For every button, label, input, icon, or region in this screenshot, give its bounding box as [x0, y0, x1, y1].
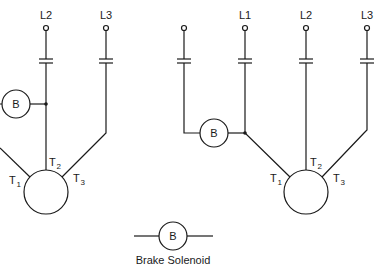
svg-text:3: 3: [81, 178, 86, 187]
svg-text:1: 1: [17, 180, 22, 189]
svg-text:2: 2: [57, 162, 62, 171]
svg-text:T: T: [270, 172, 277, 184]
terminal-unlabeled-right: [182, 26, 187, 31]
terminal-label-t2-right: T 2: [310, 156, 323, 171]
terminal-label-t2-left: T 2: [49, 156, 62, 171]
svg-text:T: T: [73, 172, 80, 184]
svg-text:T: T: [9, 174, 16, 186]
solenoid-label-right: B: [210, 127, 217, 139]
legend: B Brake Solenoid: [134, 222, 213, 266]
svg-text:T: T: [310, 156, 317, 168]
wire-l3-lower-right: [322, 63, 367, 177]
svg-text:3: 3: [341, 178, 346, 187]
wire-l3-lower-left: [62, 63, 106, 177]
terminal-l2-left: [44, 26, 49, 31]
terminal-l1-right: [243, 26, 248, 31]
junction-dot-right: [243, 131, 247, 135]
terminal-label-t3-left: T 3: [73, 172, 86, 187]
terminal-label-t1-left: T 1: [9, 174, 22, 189]
terminal-label-t1-right: T 1: [270, 172, 283, 187]
solenoid-label-left: B: [12, 98, 19, 110]
terminal-l3-right: [365, 26, 370, 31]
legend-caption: Brake Solenoid: [136, 254, 211, 266]
svg-text:1: 1: [278, 178, 283, 187]
motor-right: [284, 170, 328, 214]
terminal-l3-left: [104, 26, 109, 31]
svg-text:2: 2: [318, 162, 323, 171]
svg-text:T: T: [333, 172, 340, 184]
line-label-l2-right: L2: [300, 9, 312, 21]
wire-l1-lower: [245, 63, 290, 177]
line-label-l3-left: L3: [100, 9, 112, 21]
wiring-diagram: L2 B L3 T 1 T 2 T 3: [0, 0, 378, 272]
right-circuit: B L1 L2 L3 T 1 T 2: [177, 9, 374, 214]
wire-unlabeled-lower: [184, 63, 200, 133]
line-label-l2-left: L2: [40, 9, 52, 21]
legend-symbol-label: B: [169, 230, 176, 242]
terminal-label-t3-right: T 3: [333, 172, 346, 187]
line-label-l3-right: L3: [361, 9, 373, 21]
motor-left: [24, 170, 68, 214]
left-circuit: L2 B L3 T 1 T 2 T 3: [0, 9, 113, 214]
svg-text:T: T: [49, 156, 56, 168]
terminal-l2-right: [304, 26, 309, 31]
line-label-l1-right: L1: [239, 9, 251, 21]
